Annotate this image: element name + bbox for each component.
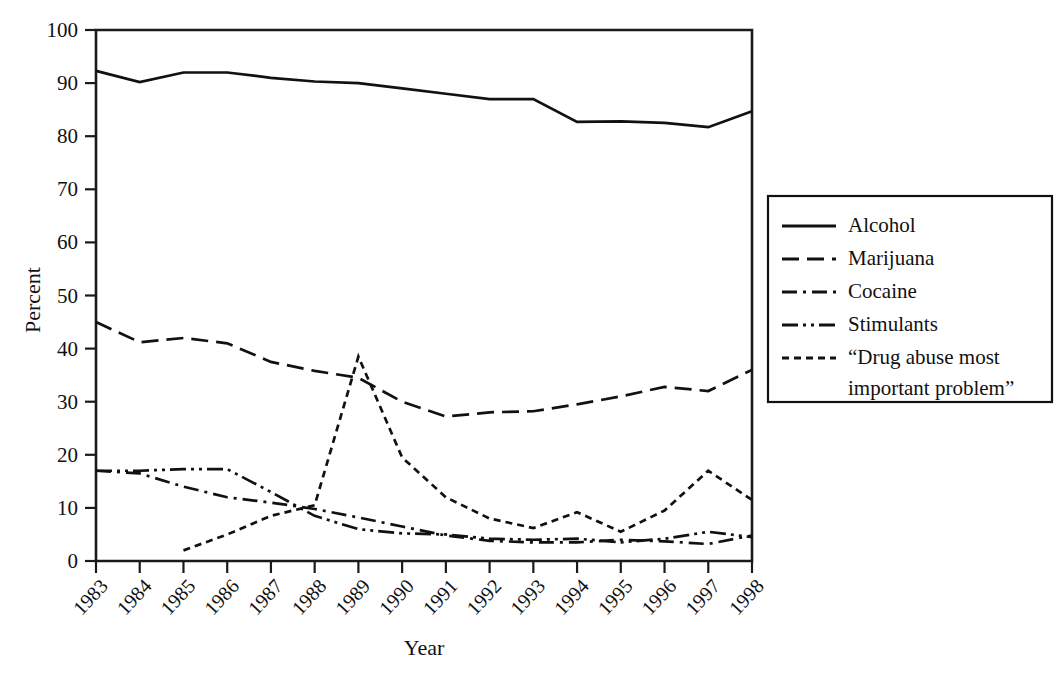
x-tick-label: 1994 [550,575,593,619]
legend-label-cocaine: Cocaine [848,279,917,303]
x-tick-label: 1986 [200,575,243,619]
x-tick-label: 1985 [156,575,199,619]
y-tick-label: 100 [47,18,79,42]
legend-label-drug-abuse-line2: important problem” [848,376,1014,400]
x-tick-label: 1996 [637,575,680,619]
legend-label-marijuana: Marijuana [848,246,935,270]
x-tick-label: 1995 [593,575,636,619]
y-tick-label: 70 [57,177,78,201]
x-tick-label: 1987 [243,575,286,619]
series-line-marijuana [96,322,752,417]
y-tick-label: 80 [57,124,78,148]
x-tick-label: 1992 [462,575,505,619]
x-tick-label: 1991 [418,575,461,619]
legend-label-alcohol: Alcohol [848,213,916,237]
x-tick-label: 1990 [375,575,418,619]
x-tick-label: 1998 [725,575,768,619]
x-tick-label: 1988 [287,575,330,619]
x-tick-label: 1983 [69,575,112,619]
x-tick-label: 1989 [331,575,374,619]
legend-label-stimulants: Stimulants [848,312,938,336]
y-tick-label: 40 [57,337,78,361]
series-line-drug-abuse-most-important-problem [183,357,752,551]
data-series-group [96,71,752,550]
y-axis: 0102030405060708090100 [47,18,97,573]
series-line-alcohol [96,71,752,127]
y-tick-label: 20 [57,443,78,467]
y-axis-title: Percent [20,267,45,333]
line-chart: 0102030405060708090100 19831984198519861… [0,0,1061,680]
x-tick-label: 1993 [506,575,549,619]
x-tick-label: 1997 [681,575,724,619]
plot-frame [96,30,752,561]
legend-label-drug-abuse-line1: “Drug abuse most [848,345,1000,369]
y-tick-label: 10 [57,496,78,520]
y-tick-label: 30 [57,390,78,414]
y-tick-label: 50 [57,284,78,308]
x-axis-title: Year [404,635,445,660]
y-tick-label: 90 [57,71,78,95]
y-tick-label: 0 [68,549,79,573]
legend: AlcoholMarijuanaCocaineStimulants“Drug a… [768,196,1052,402]
x-tick-label: 1984 [112,575,155,619]
chart-container: 0102030405060708090100 19831984198519861… [0,0,1061,680]
y-tick-label: 60 [57,230,78,254]
x-axis: 1983198419851986198719881989199019911992… [69,561,768,619]
